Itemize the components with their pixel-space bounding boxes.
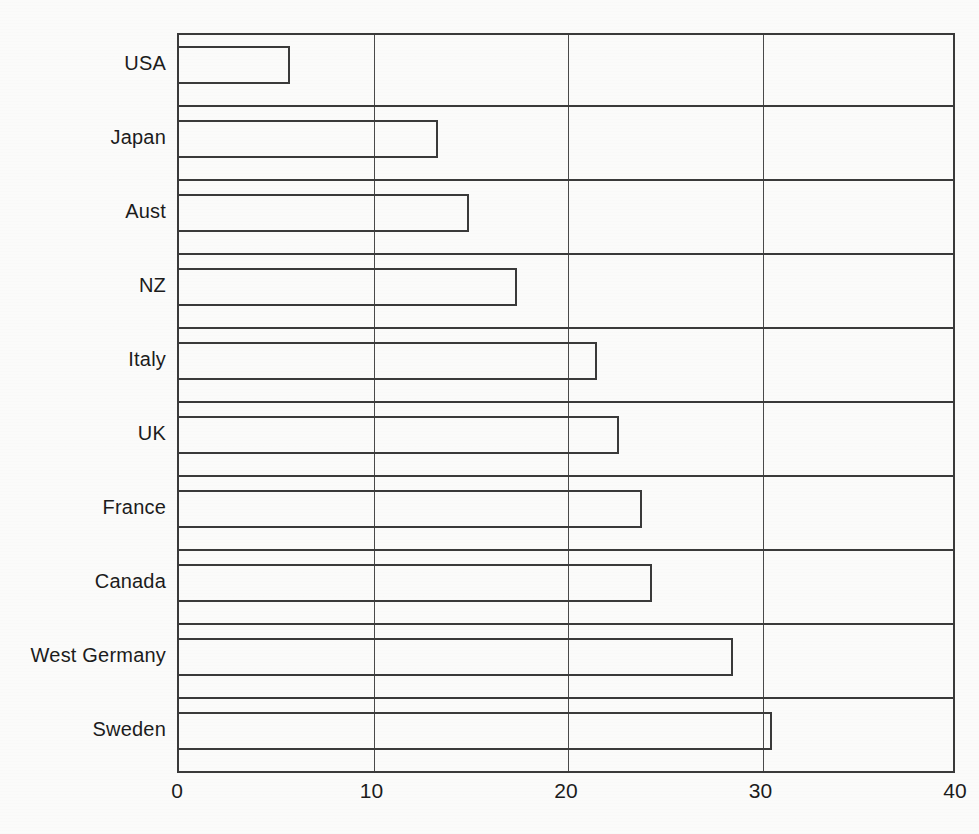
category-label-aust: Aust — [6, 200, 166, 223]
band-separator — [177, 697, 955, 699]
bar-france — [177, 490, 642, 528]
bar-japan — [177, 120, 438, 158]
bar-aust — [177, 194, 469, 232]
xtick-label-20: 20 — [554, 779, 577, 803]
bar-nz — [177, 268, 517, 306]
category-label-france: France — [6, 496, 166, 519]
band-separator — [177, 327, 955, 329]
band-separator — [177, 549, 955, 551]
bar-uk — [177, 416, 619, 454]
category-label-usa: USA — [6, 52, 166, 75]
bars-layer — [177, 33, 955, 773]
category-label-uk: UK — [6, 422, 166, 445]
band-separator — [177, 253, 955, 255]
xtick-label-40: 40 — [943, 779, 966, 803]
band-separator — [177, 475, 955, 477]
bar-west-germany — [177, 638, 733, 676]
xtick-label-10: 10 — [360, 779, 383, 803]
band-separator — [177, 179, 955, 181]
value-axis-labels: 010203040 — [177, 779, 955, 819]
chart-page: USAJapanAustNZItalyUKFranceCanadaWest Ge… — [0, 0, 979, 834]
category-label-sweden: Sweden — [6, 718, 166, 741]
category-label-canada: Canada — [6, 570, 166, 593]
bar-italy — [177, 342, 597, 380]
bar-canada — [177, 564, 652, 602]
band-separator — [177, 771, 955, 773]
bar-sweden — [177, 712, 772, 750]
category-axis-labels: USAJapanAustNZItalyUKFranceCanadaWest Ge… — [0, 33, 166, 773]
xtick-label-30: 30 — [749, 779, 772, 803]
band-separator — [177, 623, 955, 625]
category-label-west-germany: West Germany — [6, 644, 166, 667]
category-label-japan: Japan — [6, 126, 166, 149]
category-label-nz: NZ — [6, 274, 166, 297]
xtick-label-0: 0 — [171, 779, 183, 803]
band-separator — [177, 105, 955, 107]
band-separator — [177, 401, 955, 403]
category-label-italy: Italy — [6, 348, 166, 371]
bar-usa — [177, 46, 290, 84]
